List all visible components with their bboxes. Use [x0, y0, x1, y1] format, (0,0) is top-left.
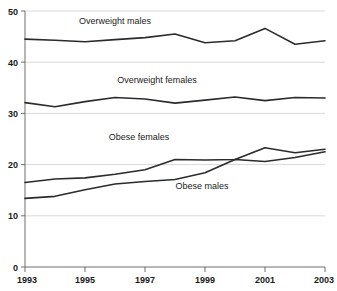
y-axis-label-0: 0: [13, 263, 18, 273]
x-axis-label-1997: 1997: [135, 275, 155, 285]
series-annotation-obese-males: Obese males: [175, 181, 229, 191]
y-axis-label-40: 40: [8, 58, 18, 68]
series-annotation-overweight-males: Overweight males: [79, 16, 152, 26]
x-axis-label-2001: 2001: [255, 275, 275, 285]
x-axis-label-1999: 1999: [195, 275, 215, 285]
line-chart: 01020304050199319951997199920012003Overw…: [0, 0, 337, 291]
series-annotation-obese-females: Obese females: [109, 132, 170, 142]
x-axis-label-1993: 1993: [17, 275, 37, 285]
chart-container: 01020304050199319951997199920012003Overw…: [0, 0, 337, 291]
y-axis-label-50: 50: [8, 7, 18, 17]
y-axis-label-30: 30: [8, 109, 18, 119]
x-axis-label-2003: 2003: [314, 275, 334, 285]
series-line-obese-females: [25, 148, 325, 183]
y-axis-label-20: 20: [8, 160, 18, 170]
y-axis-label-10: 10: [8, 211, 18, 221]
series-line-overweight-males: [25, 28, 325, 44]
x-axis-label-1995: 1995: [75, 275, 95, 285]
series-line-overweight-females: [25, 97, 325, 107]
series-annotation-overweight-females: Overweight females: [117, 75, 197, 85]
